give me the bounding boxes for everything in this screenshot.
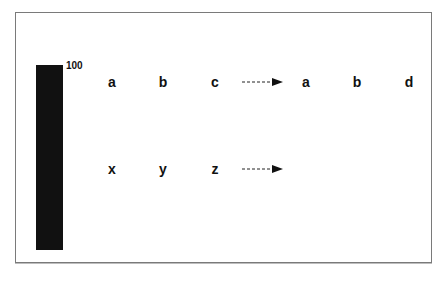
bar-value-label: 100	[66, 60, 83, 71]
row1-output-2: b	[353, 75, 362, 89]
dashed-arrow-icon	[241, 77, 285, 87]
row1-output-3: d	[405, 75, 414, 89]
row1-input-1: a	[108, 75, 116, 89]
dashed-arrow-icon	[241, 164, 285, 174]
row2-input-1: x	[108, 162, 116, 176]
row2-input-3: z	[212, 162, 219, 176]
row1-output-1: a	[302, 75, 310, 89]
diagram-frame	[15, 12, 432, 263]
row1-input-3: c	[211, 75, 219, 89]
vertical-bar	[36, 65, 63, 250]
row2-input-2: y	[159, 162, 167, 176]
row1-input-2: b	[159, 75, 168, 89]
